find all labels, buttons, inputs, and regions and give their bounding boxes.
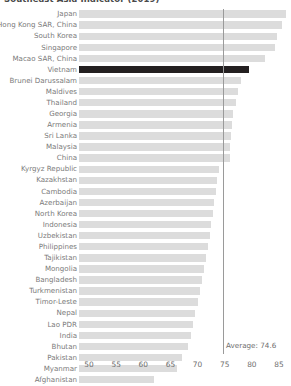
category-label: Nepal bbox=[0, 308, 77, 317]
category-label: Sri Lanka bbox=[0, 131, 77, 140]
chart-row: Kazakhstan bbox=[0, 175, 290, 186]
chart-row: Armenia bbox=[0, 120, 290, 131]
category-label: Turkmenistan bbox=[0, 286, 77, 295]
bar bbox=[79, 55, 265, 62]
bar-highlighted bbox=[79, 66, 249, 73]
chart-row: Indonesia bbox=[0, 220, 290, 231]
category-label: Macao SAR, China bbox=[0, 54, 77, 63]
category-label: Singapore bbox=[0, 43, 77, 52]
category-label: Japan bbox=[0, 9, 77, 18]
x-axis-tick: 50 bbox=[77, 360, 101, 369]
chart-row: Maldives bbox=[0, 87, 290, 98]
category-label: Armenia bbox=[0, 120, 77, 129]
category-label: Philippines bbox=[0, 242, 77, 251]
category-label: Maldives bbox=[0, 87, 77, 96]
x-axis-tick: 60 bbox=[131, 360, 155, 369]
category-label: North Korea bbox=[0, 209, 77, 218]
chart-row: Malaysia bbox=[0, 142, 290, 153]
x-axis-tick: 85 bbox=[267, 360, 291, 369]
chart-row: Timor-Leste bbox=[0, 297, 290, 308]
bar bbox=[79, 21, 282, 28]
bar bbox=[79, 33, 277, 40]
bar bbox=[79, 243, 208, 250]
category-label: Tajikistan bbox=[0, 253, 77, 262]
x-axis: 5055606570758085 bbox=[0, 360, 290, 372]
bar bbox=[79, 298, 198, 305]
bar bbox=[79, 321, 193, 328]
chart-row: Philippines bbox=[0, 242, 290, 253]
bar bbox=[79, 232, 210, 239]
category-label: India bbox=[0, 331, 77, 340]
bar bbox=[79, 276, 202, 283]
x-axis-tick: 70 bbox=[186, 360, 210, 369]
category-label: China bbox=[0, 153, 77, 162]
category-label: Kazakhstan bbox=[0, 175, 77, 184]
category-label: South Korea bbox=[0, 31, 77, 40]
bar bbox=[79, 188, 216, 195]
x-axis-tick: 55 bbox=[104, 360, 128, 369]
chart-row: Kyrgyz Republic bbox=[0, 164, 290, 175]
chart-row: Afghanistan bbox=[0, 375, 290, 386]
bar bbox=[79, 44, 275, 51]
x-axis-tick: 75 bbox=[213, 360, 237, 369]
bar bbox=[79, 154, 230, 161]
bar bbox=[79, 110, 233, 117]
bar bbox=[79, 287, 200, 294]
category-label: Timor-Leste bbox=[0, 297, 77, 306]
category-label: Bangladesh bbox=[0, 275, 77, 284]
chart-row: Macao SAR, China bbox=[0, 53, 290, 64]
bar bbox=[79, 143, 230, 150]
chart-row: Nepal bbox=[0, 308, 290, 319]
bar bbox=[79, 121, 232, 128]
chart-row: Brunei Darussalam bbox=[0, 75, 290, 86]
chart-row: South Korea bbox=[0, 31, 290, 42]
average-reference-label: Average: 74.6 bbox=[226, 341, 276, 350]
bar bbox=[79, 332, 191, 339]
bar bbox=[79, 376, 154, 383]
bar bbox=[79, 199, 214, 206]
bar bbox=[79, 132, 231, 139]
chart-row: Vietnam bbox=[0, 64, 290, 75]
category-label: Cambodia bbox=[0, 187, 77, 196]
category-label: Vietnam bbox=[0, 65, 77, 74]
plot-area: JapanHong Kong SAR, ChinaSouth KoreaSing… bbox=[0, 9, 290, 352]
bar bbox=[79, 254, 206, 261]
bar bbox=[79, 177, 217, 184]
chart-row: Hong Kong SAR, China bbox=[0, 20, 290, 31]
bar bbox=[79, 221, 211, 228]
category-label: Malaysia bbox=[0, 142, 77, 151]
category-label: Hong Kong SAR, China bbox=[0, 20, 77, 29]
chart-row: North Korea bbox=[0, 208, 290, 219]
bar bbox=[79, 310, 195, 317]
chart-row: Sri Lanka bbox=[0, 131, 290, 142]
chart-row: Uzbekistan bbox=[0, 231, 290, 242]
chart-row: China bbox=[0, 153, 290, 164]
category-label: Mongolia bbox=[0, 264, 77, 273]
category-label: Bhutan bbox=[0, 342, 77, 351]
category-label: Afghanistan bbox=[0, 375, 77, 384]
chart-row: Bangladesh bbox=[0, 275, 290, 286]
bar bbox=[79, 210, 213, 217]
chart-row: Japan bbox=[0, 9, 290, 20]
bar bbox=[79, 99, 236, 106]
category-label: Lao PDR bbox=[0, 320, 77, 329]
category-label: Indonesia bbox=[0, 220, 77, 229]
category-label: Georgia bbox=[0, 109, 77, 118]
bar bbox=[79, 166, 219, 173]
bar bbox=[79, 88, 238, 95]
bar bbox=[79, 10, 286, 17]
x-axis-tick: 80 bbox=[240, 360, 264, 369]
chart-row: Cambodia bbox=[0, 186, 290, 197]
category-label: Uzbekistan bbox=[0, 231, 77, 240]
category-label: Thailand bbox=[0, 98, 77, 107]
chart-row: Turkmenistan bbox=[0, 286, 290, 297]
chart-row: Thailand bbox=[0, 98, 290, 109]
category-label: Kyrgyz Republic bbox=[0, 164, 77, 173]
chart-row: Tajikistan bbox=[0, 253, 290, 264]
bar bbox=[79, 343, 188, 350]
chart-row: Mongolia bbox=[0, 264, 290, 275]
chart-row: India bbox=[0, 330, 290, 341]
x-axis-tick: 65 bbox=[158, 360, 182, 369]
category-label: Brunei Darussalam bbox=[0, 76, 77, 85]
